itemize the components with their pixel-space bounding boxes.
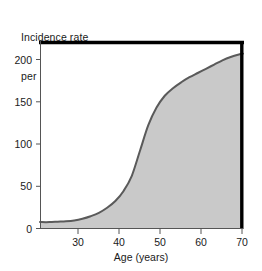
incidence-rate-chart: Incidence rate per 100,000 (UK) — [0, 0, 262, 271]
y-tick-label-150: 150 — [4, 96, 32, 108]
y-tick-label-200: 200 — [4, 54, 32, 66]
plot-area — [0, 0, 262, 271]
y-tick-label-100: 100 — [4, 138, 32, 150]
x-tick-label-30: 30 — [72, 236, 84, 248]
x-axis-title: Age (years) — [114, 251, 168, 263]
y-tick-label-0: 0 — [4, 223, 32, 235]
x-tick-label-40: 40 — [113, 236, 125, 248]
x-tick-label-50: 50 — [154, 236, 166, 248]
y-tick-label-50: 50 — [4, 180, 32, 192]
x-tick-label-60: 60 — [195, 236, 207, 248]
x-tick-label-70: 70 — [236, 236, 248, 248]
